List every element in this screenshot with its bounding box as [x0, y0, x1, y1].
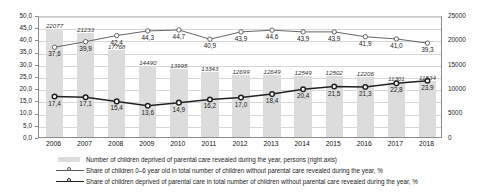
point-value-label: 15,4	[101, 105, 132, 111]
right-axis-tick: 25000	[448, 13, 466, 19]
category-label: 2011	[193, 140, 224, 148]
category-label: 2010	[162, 140, 193, 148]
category-axis: 2006200720082009201020112012201320142015…	[38, 140, 442, 152]
point-value-label: 17,1	[70, 101, 101, 107]
right-axis-tick: 10000	[448, 86, 466, 92]
chart-legend: Number of children deprived of parental …	[56, 154, 474, 187]
point-value-label: 43,9	[288, 36, 319, 42]
legend-item-line-young: Share of children 0–6 year old in total …	[56, 165, 474, 176]
data-point-marker	[177, 28, 181, 32]
category-label: 2018	[411, 140, 442, 148]
right-axis-tick: 15000	[448, 62, 466, 68]
data-point-marker	[363, 85, 368, 90]
left-axis-tick: 45,0	[20, 25, 32, 31]
bar-value-label: 14490	[132, 60, 163, 66]
category-label: 2017	[380, 140, 411, 148]
legend-label-line-young: Share of children 0–6 year old in total …	[86, 167, 383, 174]
point-value-label: 41,9	[350, 41, 381, 47]
legend-item-bars: Number of children deprived of parental …	[56, 154, 474, 165]
category-label: 2008	[100, 140, 131, 148]
left-axis-tick: 0,0	[23, 135, 32, 141]
left-axis: 0,05,010,015,020,025,030,035,040,045,050…	[0, 16, 36, 138]
bar-swatch-icon	[58, 157, 80, 162]
category-label: 2013	[256, 140, 287, 148]
point-value-label: 41,0	[381, 43, 412, 49]
left-axis-tick: 25,0	[20, 74, 32, 80]
point-value-label: 43,9	[319, 36, 350, 42]
category-label: 2015	[318, 140, 349, 148]
legend-label-line-deprived: Share of children deprived of parental c…	[86, 178, 418, 185]
point-value-label: 21,5	[319, 91, 350, 97]
bar-value-label: 12206	[350, 71, 381, 77]
data-point-marker	[208, 37, 212, 41]
data-point-marker	[114, 99, 119, 104]
data-point-marker	[425, 41, 429, 45]
data-point-marker	[301, 87, 306, 92]
bar-value-label: 17768	[101, 44, 132, 50]
data-point-marker	[363, 35, 367, 39]
chart-container: 0,05,010,015,020,025,030,035,040,045,050…	[0, 0, 478, 193]
bar-value-label: 21233	[70, 27, 101, 33]
point-value-label: 20,4	[288, 93, 319, 99]
data-point-marker	[239, 30, 243, 34]
point-value-label: 17,0	[225, 102, 256, 108]
category-label: 2006	[38, 140, 69, 148]
data-point-marker	[83, 39, 87, 43]
category-label: 2007	[69, 140, 100, 148]
category-label: 2009	[131, 140, 162, 148]
bar-value-label: 22077	[39, 23, 70, 29]
point-value-label: 23,9	[412, 85, 443, 91]
bar-value-label: 12502	[319, 70, 350, 76]
point-value-label: 40,9	[194, 43, 225, 49]
data-point-marker	[52, 45, 56, 49]
point-value-label: 39,9	[70, 46, 101, 52]
left-axis-tick: 30,0	[20, 62, 32, 68]
data-point-marker	[270, 92, 275, 97]
point-value-label: 44,7	[163, 34, 194, 40]
category-label: 2014	[287, 140, 318, 148]
data-point-marker	[239, 95, 244, 100]
bar-value-label: 12699	[225, 69, 256, 75]
plot-area: 37,639,942,444,344,740,943,944,643,943,9…	[38, 16, 442, 138]
legend-label-bars: Number of children deprived of parental …	[86, 156, 337, 163]
data-point-marker	[270, 28, 274, 32]
point-value-label: 21,3	[350, 91, 381, 97]
data-point-marker	[146, 29, 150, 33]
right-axis-tick: 5000	[448, 110, 462, 116]
bar-value-label: 12549	[288, 70, 319, 76]
category-label: 2012	[224, 140, 255, 148]
data-point-marker	[332, 84, 337, 89]
left-axis-tick: 15,0	[20, 98, 32, 104]
data-point-marker	[177, 100, 182, 105]
bar-value-label: 13995	[163, 63, 194, 69]
point-value-label: 18,4	[257, 98, 288, 104]
legend-item-line-deprived: Share of children deprived of parental c…	[56, 176, 474, 187]
right-axis-tick: 0	[448, 135, 452, 141]
point-value-label: 22,8	[381, 87, 412, 93]
bar-value-label: 12649	[257, 69, 288, 75]
point-value-label: 43,9	[225, 36, 256, 42]
point-value-label: 44,6	[257, 34, 288, 40]
point-value-label: 14,9	[163, 107, 194, 113]
data-point-marker	[52, 94, 57, 99]
data-point-marker	[208, 97, 213, 102]
data-point-marker	[83, 95, 88, 100]
bar-value-label: 11534	[412, 75, 443, 81]
point-value-label: 16,2	[194, 103, 225, 109]
left-axis-tick: 20,0	[20, 86, 32, 92]
left-axis-tickmark	[35, 138, 38, 139]
category-label: 2016	[349, 140, 380, 148]
data-point-marker	[145, 104, 150, 109]
point-value-label: 17,4	[39, 101, 70, 107]
bar-value-label: 11301	[381, 76, 412, 82]
left-axis-tick: 50,0	[20, 13, 32, 19]
point-value-label: 44,3	[132, 35, 163, 41]
point-value-label: 37,6	[39, 51, 70, 57]
data-point-marker	[301, 30, 305, 34]
right-axis: 0500010000150002000025000	[444, 16, 478, 138]
point-value-label: 39,3	[412, 47, 443, 53]
left-axis-tick: 35,0	[20, 49, 32, 55]
bar-value-label: 13343	[194, 66, 225, 72]
left-axis-tick: 40,0	[20, 37, 32, 43]
data-point-marker	[114, 33, 118, 37]
